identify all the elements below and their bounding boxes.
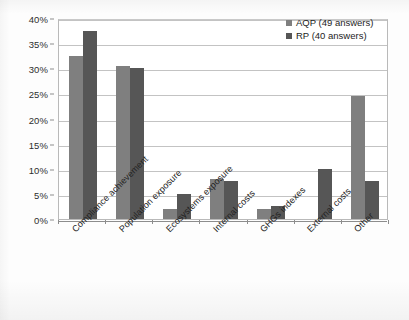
y-tick-label-0: 0% bbox=[34, 215, 48, 226]
x-tick-mark-4 bbox=[247, 220, 248, 224]
x-tick-mark-5 bbox=[294, 220, 295, 224]
x-tick-mark-6 bbox=[341, 220, 342, 224]
y-tick-label-20: 20% bbox=[29, 114, 48, 125]
legend-item[interactable]: AQP (49 answers) bbox=[286, 17, 373, 28]
bar-aqp[interactable] bbox=[351, 96, 365, 219]
legend-label: AQP (49 answers) bbox=[296, 17, 373, 28]
y-tick-mark-30 bbox=[50, 69, 54, 70]
y-tick-mark-5 bbox=[50, 194, 54, 195]
legend-label: RP (40 answers) bbox=[296, 30, 367, 41]
legend-item[interactable]: RP (40 answers) bbox=[286, 30, 373, 41]
y-tick-label-40: 40% bbox=[29, 14, 48, 25]
bar-group bbox=[248, 20, 295, 219]
y-tick-mark-35 bbox=[50, 44, 54, 45]
x-tick-mark-7 bbox=[388, 220, 389, 224]
x-tick-mark-3 bbox=[199, 220, 200, 224]
y-tick-mark-20 bbox=[50, 119, 54, 120]
bar-rp[interactable] bbox=[130, 68, 144, 219]
y-tick-label-5: 5% bbox=[34, 189, 48, 200]
chart-legend: AQP (49 answers)RP (40 answers) bbox=[286, 17, 373, 41]
legend-swatch-aqp bbox=[286, 20, 292, 26]
y-tick-label-35: 35% bbox=[29, 39, 48, 50]
y-tick-mark-15 bbox=[50, 144, 54, 145]
bar-group bbox=[59, 20, 106, 219]
y-tick-label-30: 30% bbox=[29, 64, 48, 75]
bar-aqp[interactable] bbox=[116, 66, 130, 219]
y-tick-mark-40 bbox=[50, 19, 54, 20]
bar-rp[interactable] bbox=[83, 31, 97, 219]
y-tick-label-25: 25% bbox=[29, 89, 48, 100]
x-tick-mark-0 bbox=[58, 220, 59, 224]
y-axis: 0%5%10%15%20%25%30%35%40% bbox=[0, 19, 54, 220]
x-tick-mark-1 bbox=[105, 220, 106, 224]
bar-aqp[interactable] bbox=[69, 56, 83, 219]
y-tick-label-10: 10% bbox=[29, 164, 48, 175]
legend-swatch-rp bbox=[286, 33, 292, 39]
y-tick-mark-10 bbox=[50, 169, 54, 170]
x-tick-mark-2 bbox=[152, 220, 153, 224]
y-tick-mark-0 bbox=[50, 220, 54, 221]
y-tick-label-15: 15% bbox=[29, 139, 48, 150]
y-tick-mark-25 bbox=[50, 94, 54, 95]
bar-chart-figure: 0%5%10%15%20%25%30%35%40% Compliance ach… bbox=[0, 0, 409, 320]
